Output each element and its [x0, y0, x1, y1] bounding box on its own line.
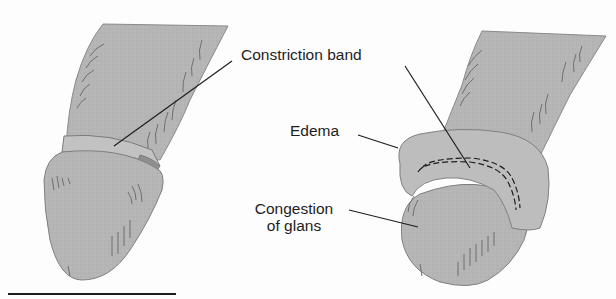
- constriction-band-label: Constriction band: [241, 46, 362, 63]
- figure-stage: Constriction band Edema Congestion of gl…: [0, 0, 616, 299]
- edema-label: Edema: [290, 122, 339, 139]
- left-glans: [44, 151, 163, 280]
- edema-leader: [358, 135, 398, 148]
- congestion-label-line1: Congestion: [234, 200, 354, 217]
- congestion-of-glans-label: Congestion of glans: [234, 200, 354, 234]
- congestion-label-line2: of glans: [234, 217, 354, 234]
- right-figure: [349, 31, 606, 286]
- left-figure: [8, 24, 232, 294]
- illustration: [0, 0, 616, 299]
